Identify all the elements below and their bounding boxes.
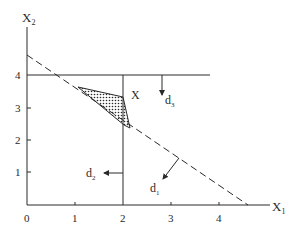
y-axis-label: X2 (22, 10, 35, 27)
d2-label: d2 (86, 166, 96, 182)
y-tick-label-1: 1 (15, 166, 21, 178)
x-axis-label: X1 (272, 199, 285, 216)
d1-arrow (163, 158, 179, 179)
y-tick-label-2: 2 (15, 134, 21, 146)
x-tick-label-3: 3 (168, 212, 174, 224)
y-tick-label-3: 3 (15, 102, 21, 114)
d1-label: d1 (150, 181, 160, 197)
point-x-label: X (131, 88, 140, 102)
axes (27, 27, 270, 205)
goal-programming-diagram: X2 X1 0 1 2 3 4 1 2 3 4 X d3 d2 d1 (0, 0, 300, 229)
x-tick-label-4: 4 (216, 212, 222, 224)
x-tick-label-1: 1 (72, 212, 78, 224)
origin-label: 0 (24, 212, 30, 224)
y-tick-label-4: 4 (15, 69, 21, 81)
d3-label: d3 (165, 93, 175, 109)
x-tick-label-2: 2 (120, 212, 126, 224)
constraint-dashed-line (27, 55, 248, 205)
